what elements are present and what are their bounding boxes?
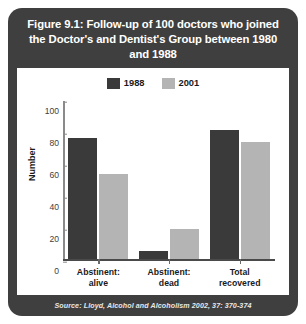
bar-group	[204, 99, 275, 259]
y-tick-label: 80	[49, 138, 59, 148]
bar-1988	[139, 251, 168, 259]
y-axis-label: Number	[27, 147, 37, 181]
y-tick-label: 20	[49, 234, 59, 244]
bar-1988	[210, 130, 239, 260]
legend-item-1988: 1988	[107, 78, 145, 89]
chart-area: 1988 2001 Number 020406080100 Abstinent:…	[17, 68, 289, 295]
bar-2001	[99, 174, 128, 259]
chart-legend: 1988 2001	[17, 78, 289, 89]
legend-label-2001: 2001	[179, 78, 200, 88]
legend-swatch-1988	[107, 78, 120, 89]
bar-2001	[170, 229, 199, 259]
x-axis-label: Abstinent:dead	[134, 267, 205, 289]
legend-swatch-2001	[162, 78, 175, 89]
figure-source: Source: Lloyd, Alcohol and Alcoholism 20…	[55, 302, 252, 310]
y-tick-label: 100	[45, 106, 59, 116]
bar-groups	[63, 99, 275, 259]
y-tick-label: 40	[49, 202, 59, 212]
bar-group	[63, 99, 134, 259]
x-tick-mark	[98, 259, 99, 264]
figure-panel: Figure 9.1: Follow-up of 100 doctors who…	[8, 8, 298, 316]
x-axis-label: Totalrecovered	[204, 267, 275, 289]
x-axis-label: Abstinent:alive	[63, 267, 134, 289]
x-axis-label-line2: dead	[134, 278, 205, 289]
figure-title: Figure 9.1: Follow-up of 100 doctors who…	[17, 15, 289, 62]
y-tick-label: 60	[49, 170, 59, 180]
plot-region: 020406080100	[63, 101, 275, 261]
x-tick-mark	[169, 259, 170, 264]
bar-group	[134, 99, 205, 259]
bar-1988	[68, 138, 97, 260]
x-tick-mark	[240, 259, 241, 264]
y-tick-label: 0	[54, 266, 59, 276]
x-axis-labels: Abstinent:aliveAbstinent:deadTotalrecove…	[63, 267, 275, 289]
x-axis-label-line2: recovered	[204, 278, 275, 289]
x-axis-label-line2: alive	[63, 278, 134, 289]
y-tick-mark	[63, 261, 67, 262]
legend-item-2001: 2001	[162, 78, 200, 89]
legend-label-1988: 1988	[124, 78, 145, 88]
bar-2001	[241, 142, 270, 259]
